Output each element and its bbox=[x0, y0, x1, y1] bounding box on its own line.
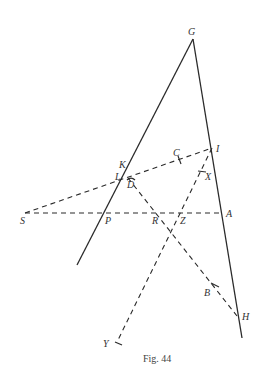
dashed-line-i-y bbox=[117, 148, 212, 342]
label-k: K bbox=[118, 159, 127, 170]
solid-line-right bbox=[193, 39, 242, 338]
label-p: P bbox=[104, 215, 111, 226]
label-i: I bbox=[215, 143, 220, 154]
label-y: Y bbox=[103, 338, 110, 349]
label-a: A bbox=[225, 208, 233, 219]
label-g: G bbox=[188, 26, 195, 37]
label-x: X bbox=[204, 171, 212, 182]
label-d: D bbox=[126, 179, 135, 190]
label-z: Z bbox=[180, 215, 186, 226]
figure-caption: Fig. 44 bbox=[143, 353, 171, 364]
label-r: R bbox=[151, 215, 158, 226]
label-l: L bbox=[114, 171, 121, 182]
label-c: C bbox=[173, 147, 180, 158]
label-h: H bbox=[241, 311, 250, 322]
geometry-figure: G I C X K L D S P R Z A B H Y Fig. 44 bbox=[0, 0, 266, 388]
label-s: S bbox=[20, 215, 25, 226]
dashed-line-d-h bbox=[128, 178, 237, 316]
label-b: B bbox=[204, 287, 210, 298]
tick-mark-y bbox=[115, 342, 122, 345]
